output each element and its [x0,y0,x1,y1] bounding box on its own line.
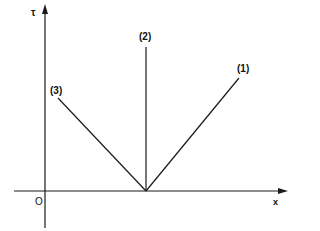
x-axis-label: x [273,198,278,207]
tau-axis-arrow-icon [42,4,48,14]
line-3-label: (3) [50,86,62,96]
origin-label: O [35,197,43,207]
tau-axis-label: τ [31,8,35,18]
x-axis-arrow-icon [278,188,288,194]
line-3 [58,98,146,191]
line-1-label: (1) [237,64,249,74]
line-2-label: (2) [139,32,151,42]
line-1 [146,78,239,191]
